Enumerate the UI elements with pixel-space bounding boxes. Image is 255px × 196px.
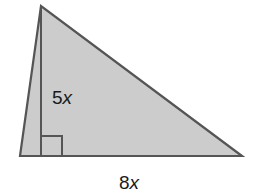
base-label: 8x (119, 173, 139, 192)
triangle-svg (0, 0, 255, 196)
base-variable: x (130, 172, 140, 193)
altitude-coefficient: 5 (52, 87, 63, 108)
triangle-diagram: 5x 8x (0, 0, 255, 196)
triangle-shape (20, 6, 242, 156)
base-coefficient: 8 (119, 172, 130, 193)
altitude-label: 5x (52, 88, 72, 107)
altitude-variable: x (63, 87, 73, 108)
